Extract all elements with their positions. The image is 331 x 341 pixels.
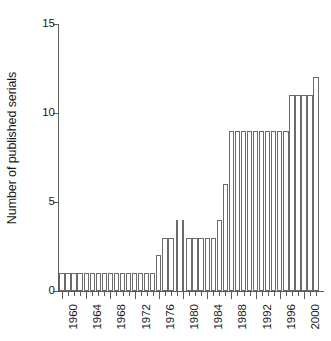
y-tick-label: 10 <box>42 106 55 119</box>
bar-1990 <box>241 131 246 291</box>
x-tick-1991 <box>250 292 251 296</box>
x-tick-1983 <box>201 292 202 296</box>
x-tick-1998 <box>292 292 293 296</box>
bar-1986 <box>217 220 222 291</box>
x-tick-1999 <box>298 292 299 296</box>
x-tick-1997 <box>286 292 287 296</box>
y-axis-title-label: Number of published serials <box>5 71 19 223</box>
x-tick-1970 <box>123 292 124 296</box>
bar-1999 <box>295 95 300 291</box>
x-tick-1968 <box>110 292 111 299</box>
x-tick-label-1988: 1988 <box>236 304 248 330</box>
bar-1967 <box>102 273 107 291</box>
bar-1984 <box>205 238 210 291</box>
bar-1979 <box>176 220 178 291</box>
bar-1989 <box>235 131 240 291</box>
x-tick-1963 <box>80 292 81 296</box>
x-tick-1973 <box>141 292 142 296</box>
x-tick-1981 <box>189 292 190 296</box>
x-tick-1993 <box>262 292 263 296</box>
bar-1968 <box>108 273 113 291</box>
x-tick-1962 <box>74 292 75 296</box>
bar-1983 <box>198 238 203 291</box>
x-tick-1960 <box>62 292 63 299</box>
x-tick-1978 <box>171 292 172 296</box>
bar-1961 <box>65 273 70 291</box>
x-tick-label-1980: 1980 <box>188 304 200 330</box>
bar-1982 <box>192 238 197 291</box>
x-tick-1965 <box>92 292 93 296</box>
x-tick-1994 <box>268 292 269 296</box>
x-tick-1969 <box>116 292 117 296</box>
x-tick-label-1960: 1960 <box>67 304 79 330</box>
x-tick-2000 <box>304 292 305 299</box>
x-tick-1992 <box>256 292 257 299</box>
bar-1985 <box>211 238 216 291</box>
bar-1977 <box>162 238 167 291</box>
x-tick-label-1964: 1964 <box>91 304 103 330</box>
x-tick-1971 <box>129 292 130 296</box>
plot-area: 051015 196019641968197219761980198419881… <box>58 18 324 291</box>
y-tick-label: 0 <box>49 284 55 297</box>
x-tick-label-1972: 1972 <box>140 304 152 330</box>
bar-1998 <box>289 95 294 291</box>
x-tick-1989 <box>237 292 238 296</box>
bar-1995 <box>271 131 276 291</box>
bar-1993 <box>259 131 264 291</box>
bar-1963 <box>77 273 82 291</box>
x-tick-1964 <box>86 292 87 299</box>
x-tick-1990 <box>244 292 245 296</box>
bar-1973 <box>138 273 143 291</box>
x-tick-2002 <box>316 292 317 296</box>
bar-1987 <box>223 184 228 291</box>
x-tick-label-1984: 1984 <box>212 304 224 330</box>
x-tick-1986 <box>219 292 220 296</box>
bar-1972 <box>132 273 137 291</box>
x-tick-label-1992: 1992 <box>261 304 273 330</box>
x-tick-1988 <box>231 292 232 299</box>
bar-1970 <box>120 273 125 291</box>
bar-1960 <box>59 273 64 291</box>
bar-1964 <box>84 273 89 291</box>
x-tick-1995 <box>274 292 275 296</box>
bar-chart: Number of published serials 051015 19601… <box>0 0 331 341</box>
bar-1988 <box>229 131 234 291</box>
bar-1996 <box>277 131 282 291</box>
bar-1974 <box>144 273 149 291</box>
x-tick-label-2000: 2000 <box>309 304 321 330</box>
x-tick-1980 <box>183 292 184 299</box>
x-tick-1984 <box>207 292 208 299</box>
x-tick-1979 <box>177 292 178 296</box>
x-tick-2001 <box>310 292 311 296</box>
y-tick-label: 5 <box>49 195 55 208</box>
x-tick-label-1996: 1996 <box>285 304 297 330</box>
bar-1981 <box>186 238 191 291</box>
x-tick-1976 <box>159 292 160 299</box>
y-axis-spine <box>58 24 59 291</box>
x-tick-label-1968: 1968 <box>115 304 127 330</box>
x-tick-1966 <box>98 292 99 296</box>
bar-1966 <box>96 273 101 291</box>
x-tick-1985 <box>213 292 214 296</box>
bar-1978 <box>168 238 173 291</box>
bar-1976 <box>156 255 161 291</box>
x-tick-1967 <box>104 292 105 296</box>
x-tick-label-1976: 1976 <box>164 304 176 330</box>
y-tick-label: 15 <box>42 17 55 30</box>
bar-1969 <box>114 273 119 291</box>
x-tick-1975 <box>153 292 154 296</box>
x-tick-1961 <box>68 292 69 296</box>
y-axis-title: Number of published serials <box>0 0 24 295</box>
bar-1975 <box>150 273 155 291</box>
bar-2000 <box>301 95 306 291</box>
bar-1971 <box>126 273 131 291</box>
bar-1965 <box>90 273 95 291</box>
x-tick-1972 <box>135 292 136 299</box>
bar-1962 <box>71 273 76 291</box>
x-tick-1987 <box>225 292 226 296</box>
x-tick-1974 <box>147 292 148 296</box>
bar-2002 <box>313 77 318 291</box>
bar-1992 <box>253 131 258 291</box>
x-tick-1996 <box>280 292 281 299</box>
x-tick-1977 <box>165 292 166 296</box>
